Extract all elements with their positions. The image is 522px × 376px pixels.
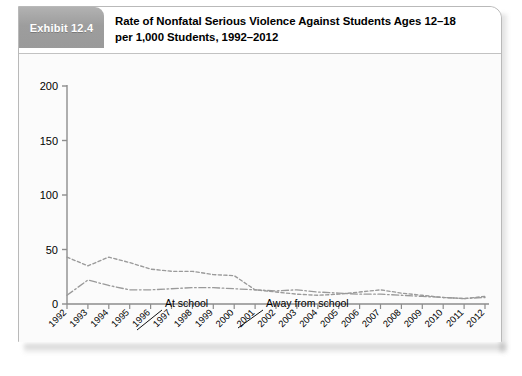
line-chart: 0501001502001992199319941995199619971998… — [19, 54, 501, 342]
x-axis-tick-label: 2010 — [423, 307, 445, 329]
x-axis-tick-label: 2008 — [381, 307, 403, 329]
y-axis-tick-label: 50 — [46, 244, 58, 256]
x-axis-tick-label: 2011 — [444, 307, 465, 328]
screenshot-root: Exhibit 12.4 Rate of Nonfatal Serious Vi… — [0, 0, 522, 376]
x-axis-tick-label: 1994 — [89, 307, 111, 329]
series-annotation-at-school: At school — [165, 297, 208, 309]
x-axis-tick-label: 2002 — [256, 307, 278, 329]
x-axis-tick-label: 2009 — [402, 307, 424, 329]
x-axis-tick-label: 1999 — [193, 307, 215, 329]
x-axis-tick-label: 2001 — [235, 307, 257, 329]
x-axis-tick-label: 2007 — [360, 307, 382, 329]
chart-panel: 0501001502001992199319941995199619971998… — [19, 54, 501, 342]
series-line-at-school — [67, 257, 485, 298]
x-axis-tick-label: 1997 — [151, 307, 173, 329]
y-axis-tick-label: 0 — [52, 298, 58, 310]
exhibit-card: Exhibit 12.4 Rate of Nonfatal Serious Vi… — [18, 6, 502, 342]
y-axis-tick-label: 150 — [40, 135, 58, 147]
x-axis-tick-label: 1998 — [172, 307, 194, 329]
exhibit-number-tab: Exhibit 12.4 — [19, 7, 104, 48]
y-axis-tick-label: 100 — [40, 189, 58, 201]
x-axis-tick-label: 1993 — [68, 307, 90, 329]
x-axis-tick-label: 2006 — [339, 307, 361, 329]
card-drop-shadow-bottom — [24, 344, 506, 354]
x-axis-tick-label: 1995 — [109, 307, 131, 329]
x-axis-tick-label: 1996 — [130, 307, 152, 329]
x-axis-tick-label: 2012 — [465, 307, 487, 329]
exhibit-header: Exhibit 12.4 Rate of Nonfatal Serious Vi… — [19, 7, 501, 54]
y-axis-tick-label: 200 — [40, 80, 58, 92]
x-axis-tick-label: 1992 — [47, 307, 69, 329]
x-axis-tick-label: 2004 — [298, 307, 320, 329]
series-annotation-away-from-school: Away from school — [266, 297, 349, 309]
x-axis-tick-label: 2003 — [277, 307, 299, 329]
exhibit-number-label: Exhibit 12.4 — [30, 22, 94, 34]
exhibit-title: Rate of Nonfatal Serious Violence Agains… — [115, 14, 493, 45]
exhibit-title-line-1: Rate of Nonfatal Serious Violence Agains… — [115, 15, 456, 27]
x-axis-tick-label: 2000 — [214, 307, 236, 329]
x-axis-tick-label: 2005 — [318, 307, 340, 329]
exhibit-title-line-2: per 1,000 Students, 1992–2012 — [115, 30, 493, 46]
series-line-away-from-school — [67, 280, 485, 299]
